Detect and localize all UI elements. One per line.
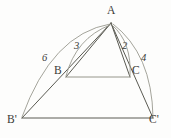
vertex-label-b: B <box>54 65 62 76</box>
vertex-label-bprime: B' <box>7 114 17 125</box>
vertex-label-a: A <box>107 5 115 16</box>
figure-canvas <box>0 0 171 138</box>
segment-a-bprime <box>22 23 111 118</box>
measure-label-2: 2 <box>122 40 127 51</box>
vertex-label-c: C <box>132 65 140 76</box>
measure-label-3: 3 <box>74 40 79 51</box>
geometry-figure: A B C B' C' 6 3 2 4 <box>0 0 171 138</box>
vertex-label-cprime: C' <box>149 114 159 125</box>
measure-label-6: 6 <box>42 52 47 63</box>
measure-label-4: 4 <box>141 52 146 63</box>
